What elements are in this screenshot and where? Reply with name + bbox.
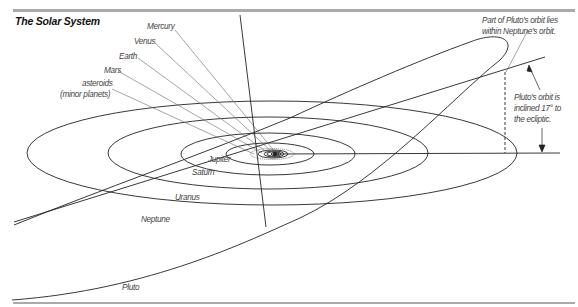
label-asteroids: asteroids <box>82 79 113 88</box>
note-within-neptune-2: within Neptune's orbit. <box>482 27 555 36</box>
leader-earth <box>138 58 268 153</box>
leader-mars <box>118 71 262 153</box>
note-inclined-1: Pluto's orbit is <box>514 93 560 102</box>
solar-system-diagram: Mercury Venus Earth Mars asteroids (mino… <box>0 0 578 307</box>
label-jupiter: Jupiter <box>207 155 231 164</box>
label-mars: Mars <box>104 66 121 75</box>
note-within-neptune-1: Part of Pluto's orbit lies <box>482 16 558 25</box>
arrow-down-head <box>539 145 545 152</box>
label-pluto: Pluto <box>122 283 140 292</box>
label-neptune: Neptune <box>141 215 171 224</box>
arrow-up-head <box>527 65 532 72</box>
pluto-axis-line <box>240 15 266 227</box>
label-saturn: Saturn <box>192 168 215 177</box>
note-inclined-3: the ecliptic. <box>514 115 551 124</box>
leader-mercury <box>175 30 275 152</box>
note-inclined-2: inclined 17° to <box>514 104 562 113</box>
label-uranus: Uranus <box>175 193 200 202</box>
leader-asteroids <box>112 89 254 154</box>
label-mercury: Mercury <box>147 22 176 31</box>
pluto-orbit <box>12 37 508 300</box>
label-earth: Earth <box>119 52 138 61</box>
label-venus: Venus <box>134 37 156 46</box>
label-minor-planets: (minor planets) <box>60 90 111 99</box>
bottom-rule <box>13 302 575 304</box>
